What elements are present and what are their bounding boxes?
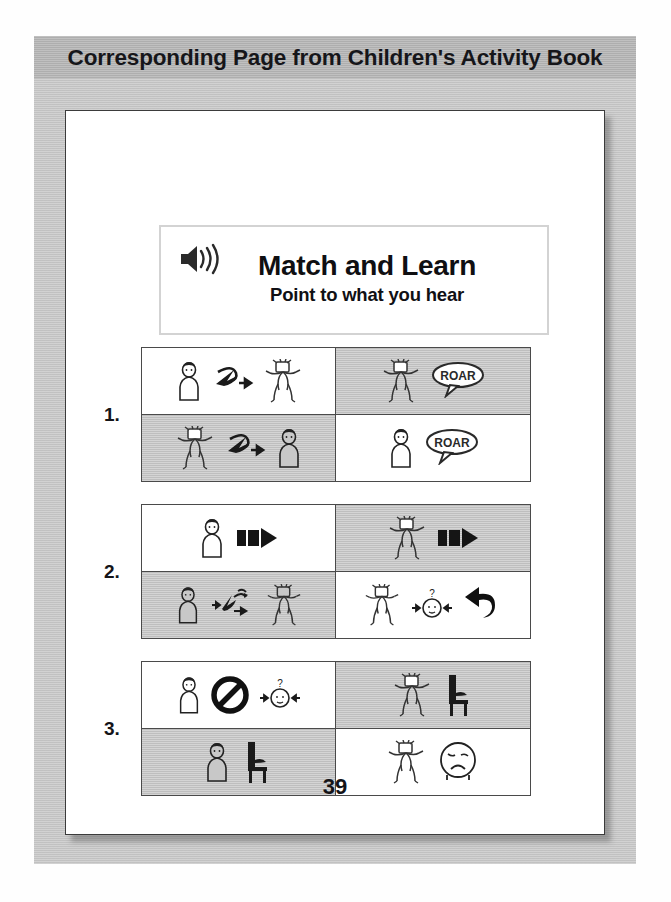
return-back-arrow-icon [463, 587, 503, 623]
exercise-cell[interactable] [142, 415, 336, 482]
exercise-number: 2. [104, 561, 120, 583]
child-standing-icon [387, 426, 415, 470]
looks-at-arrow-icon [212, 364, 254, 398]
roar-speech-bubble-icon: ROAR [424, 427, 480, 469]
child-standing-icon [175, 584, 201, 626]
exercise-number: 3. [104, 718, 120, 740]
svg-text:?: ? [429, 588, 435, 599]
page-sheet: Match and Learn Point to what you hear 1… [65, 110, 605, 835]
lion-icon [392, 673, 432, 717]
lion-icon [363, 584, 401, 626]
title-text-group: Match and Learn Point to what you hear [161, 251, 547, 306]
child-standing-icon [175, 359, 203, 403]
chair-icon [441, 673, 475, 717]
exercise-cell[interactable] [142, 348, 336, 415]
speech-bubble-text: ROAR [434, 436, 470, 450]
activity-subtitle: Point to what you hear [187, 284, 547, 306]
forward-block-arrow-icon [235, 523, 279, 553]
sad-face-icon [435, 739, 481, 785]
roar-speech-bubble-icon: ROAR [430, 360, 486, 402]
lion-icon [263, 359, 303, 403]
lion-icon [381, 359, 421, 403]
exercise-cell[interactable] [142, 572, 336, 639]
exercise-cell[interactable] [336, 662, 530, 729]
exercise-cell[interactable]: ROAR [336, 348, 530, 415]
exercise-cell[interactable] [336, 505, 530, 572]
exercise-cell[interactable]: ? [142, 662, 336, 729]
header-title: Corresponding Page from Children's Activ… [68, 45, 603, 71]
page-number: 39 [66, 774, 604, 800]
forward-block-arrow-icon [436, 523, 480, 553]
exercise-cell[interactable]: ? [336, 572, 530, 639]
chair-icon [240, 740, 274, 784]
child-standing-icon [275, 426, 303, 470]
exercise-list: 1. [66, 347, 606, 818]
exercise-grid: ? [141, 504, 531, 639]
header-banner: Corresponding Page from Children's Activ… [34, 36, 636, 79]
prohibited-sign-icon [211, 676, 249, 714]
outer-frame: Corresponding Page from Children's Activ… [34, 36, 636, 864]
exercise-cell[interactable]: ROAR [336, 415, 530, 482]
exercise-item: 1. [66, 347, 606, 482]
question-face-icon: ? [258, 678, 302, 712]
child-standing-icon [176, 674, 202, 716]
interaction-arrows-icon [210, 587, 256, 623]
exercise-item: 2. [66, 504, 606, 639]
exercise-number: 1. [104, 404, 120, 426]
lion-icon [387, 516, 427, 560]
child-standing-icon [203, 740, 231, 784]
activity-title-box: Match and Learn Point to what you hear [159, 225, 549, 335]
exercise-grid: ROAR [141, 347, 531, 482]
speech-bubble-text: ROAR [440, 369, 476, 383]
lion-icon [175, 426, 215, 470]
lion-icon [265, 584, 303, 626]
question-face-icon: ? [410, 588, 454, 622]
exercise-cell[interactable] [142, 505, 336, 572]
svg-text:?: ? [277, 678, 283, 689]
looks-at-arrow-icon [224, 431, 266, 465]
activity-title: Match and Learn [187, 251, 547, 281]
child-standing-icon [198, 516, 226, 560]
lion-icon [386, 740, 426, 784]
activity-book-page: Corresponding Page from Children's Activ… [0, 0, 671, 902]
